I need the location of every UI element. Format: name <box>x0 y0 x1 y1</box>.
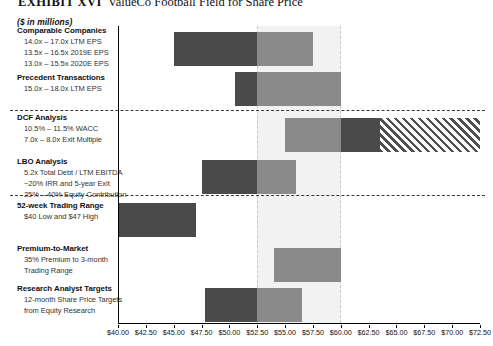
page-title: ValueCo Football Field for Share Price <box>108 0 303 10</box>
row-label-subline: 7.0x – 8.0x Exit Multiple <box>24 134 122 145</box>
bar-segment-mid <box>285 118 341 152</box>
row-label-research-analyst-targets: Research Analyst Targets12-month Share P… <box>17 283 122 316</box>
bar-segment-mid <box>257 72 341 106</box>
row-label-subline: 13.0x – 15.5x 2020E EPS <box>24 58 122 69</box>
row-label-premium-to-market: Premium-to-Market35% Premium to 3-monthT… <box>17 243 122 276</box>
bar-comparable-companies <box>174 32 313 66</box>
row-label-title: Precedent Transactions <box>17 72 122 83</box>
row-label-subline: Trading Range <box>24 265 122 276</box>
row-label-dcf-analysis: DCF Analysis10.5% – 11.5% WACC7.0x – 8.0… <box>17 112 122 145</box>
row-label-subline: 14.0x – 17.0x LTM EPS <box>24 36 122 47</box>
x-tick-label: $45.00 <box>163 328 185 337</box>
bar-segment-dark <box>205 288 257 322</box>
bar-lbo-analysis <box>202 160 297 194</box>
row-label-title: Research Analyst Targets <box>17 283 122 294</box>
x-tick-label: $67.50 <box>413 328 435 337</box>
bar-segment-mid <box>257 32 313 66</box>
bar-research-analyst-targets <box>205 288 302 322</box>
bar-dcf-analysis <box>285 118 480 152</box>
row-label-subline: 5.2x Total Debt / LTM EBITDA <box>24 167 122 178</box>
x-tick-label: $50.00 <box>218 328 240 337</box>
x-axis-ticks: $40.00$42.50$45.00$47.50$50.00$52.50$55.… <box>0 325 493 345</box>
row-label-52-week-trading-range: 52-week Trading Range$40 Low and $47 Hig… <box>17 200 122 222</box>
bar-segment-mid <box>274 248 341 282</box>
x-tick-label: $52.50 <box>246 328 268 337</box>
bar-segment-dark <box>235 72 257 106</box>
row-label-title: Comparable Companies <box>17 25 122 36</box>
x-tick-label: $40.00 <box>107 328 129 337</box>
x-tick-label: $65.00 <box>385 328 407 337</box>
row-label-title: LBO Analysis <box>17 156 122 167</box>
section-divider <box>10 110 485 111</box>
chart-header: EXHIBIT XVI ValueCo Football Field for S… <box>0 0 493 11</box>
exhibit-number: EXHIBIT XVI <box>18 0 102 10</box>
row-label-lbo-analysis: LBO Analysis5.2x Total Debt / LTM EBITDA… <box>17 156 122 200</box>
row-label-subline: 35% Premium to 3-month <box>24 254 122 265</box>
row-label-subline: $40 Low and $47 High <box>24 211 122 222</box>
row-label-subline: ~20% IRR and 5-year Exit <box>24 178 122 189</box>
football-field-chart: EXHIBIT XVI ValueCo Football Field for S… <box>0 0 493 346</box>
row-label-subline: 12-month Share Price Targets <box>24 294 122 305</box>
bar-52-week-trading-range <box>118 203 196 237</box>
x-axis-line <box>118 323 480 324</box>
row-label-comparable-companies: Comparable Companies14.0x – 17.0x LTM EP… <box>17 25 122 69</box>
row-label-subline: 13.5x – 16.5x 2019E EPS <box>24 47 122 58</box>
bar-segment-mid <box>257 160 296 194</box>
row-label-title: DCF Analysis <box>17 112 122 123</box>
x-tick-label: $60.00 <box>330 328 352 337</box>
row-label-title: 52-week Trading Range <box>17 200 122 211</box>
bar-segment-dark <box>118 203 196 237</box>
x-tick-label: $70.00 <box>441 328 463 337</box>
bar-premium-to-market <box>274 248 341 282</box>
x-tick-label: $72.50 <box>469 328 491 337</box>
x-tick-label: $47.50 <box>191 328 213 337</box>
x-tick-label: $57.50 <box>302 328 324 337</box>
bar-segment-dark <box>202 160 258 194</box>
bar-segment-dark <box>341 118 380 152</box>
bar-segment-hatch <box>380 118 480 152</box>
bar-segment-dark <box>174 32 258 66</box>
row-label-subline: 15.0x – 18.0x LTM EPS <box>24 83 122 94</box>
bar-precedent-transactions <box>235 72 341 106</box>
bar-segment-mid <box>257 288 302 322</box>
x-tick-label: $55.00 <box>274 328 296 337</box>
x-tick-label: $62.50 <box>358 328 380 337</box>
row-label-subline: 25% – 40% Equity Contribution <box>24 189 122 200</box>
x-tick-label: $42.50 <box>135 328 157 337</box>
row-label-subline: 10.5% – 11.5% WACC <box>24 123 122 134</box>
row-label-precedent-transactions: Precedent Transactions15.0x – 18.0x LTM … <box>17 72 122 94</box>
row-label-subline: from Equity Research <box>24 305 122 316</box>
y-axis-line <box>118 26 119 323</box>
row-label-title: Premium-to-Market <box>17 243 122 254</box>
